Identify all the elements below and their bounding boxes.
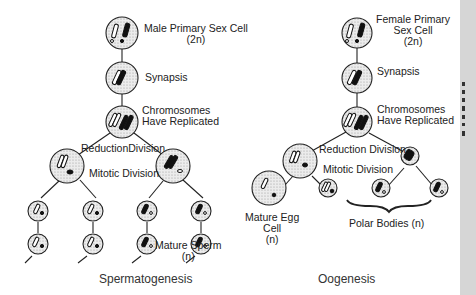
female-synapsis-label: Synapsis: [377, 66, 420, 77]
edge-mark: [462, 82, 465, 86]
mature-egg-ploidy: (n): [245, 234, 299, 245]
female-primary-cell: [342, 18, 372, 48]
edge-mark: [462, 106, 465, 111]
edge-mark: [462, 115, 465, 119]
female-mitotic-label: Mitotic Division: [323, 164, 393, 175]
polar-bodies-label: Polar Bodies (n): [349, 218, 424, 229]
edge-mark: [462, 98, 465, 102]
male-primary-cell: [106, 17, 138, 49]
male-reduction-label: ReductionDivision: [81, 143, 165, 154]
page-edge-strip: [460, 0, 476, 295]
female-reduction-label: Reduction Division: [319, 144, 406, 155]
edge-mark: [462, 90, 465, 94]
male-replicated-label: Chromosomes Have Replicated: [142, 105, 219, 127]
male-primary-cell-ploidy: (2n): [144, 34, 248, 45]
female-replicated-label: Chromosomes Have Replicated: [377, 104, 454, 126]
mature-sperm-ploidy: (n): [155, 251, 222, 262]
mature-egg-label: Mature Egg Cell (n): [245, 212, 299, 245]
female-primary-ploidy: (2n): [376, 36, 450, 47]
female-secondary-oocyte: [283, 144, 317, 178]
edge-mark: [462, 123, 465, 126]
mature-egg-cell: [252, 171, 286, 205]
spermatogenesis-cells: [28, 17, 211, 254]
mature-sperm-label: Mature Sperm (n): [155, 240, 222, 262]
spermatogenesis-caption: Spermatogenesis: [99, 272, 192, 286]
male-synapsis-label: Synapsis: [145, 72, 188, 83]
male-secondary-cell-left: [50, 149, 84, 183]
female-primary-cell-label: Female Primary Sex Cell (2n): [376, 14, 450, 47]
male-replicated-line2: Have Replicated: [142, 116, 219, 127]
female-replicated-line2: Have Replicated: [377, 115, 454, 126]
male-primary-cell-label: Male Primary Sex Cell (2n): [144, 23, 248, 45]
edge-mark: [462, 131, 465, 136]
male-mitotic-label: Mitotic Division: [89, 168, 159, 179]
oogenesis-caption: Oogenesis: [318, 272, 375, 286]
